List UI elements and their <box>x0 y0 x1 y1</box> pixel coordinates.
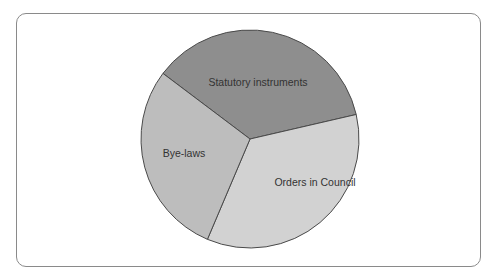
pie-chart <box>0 0 500 279</box>
label-orders-in-council: Orders in Council <box>274 176 355 188</box>
label-bye-laws: Bye-laws <box>163 147 206 159</box>
label-statutory-instruments: Statutory instruments <box>208 76 307 88</box>
